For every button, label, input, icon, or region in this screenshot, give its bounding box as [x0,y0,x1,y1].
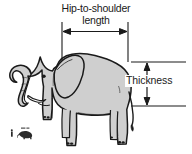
hip-to-shoulder-label-line2: length [0,15,192,27]
scale-ref-person-head [11,129,13,131]
elephant-tail-tuft [131,125,133,131]
elephant-measurement-figure: Hip-to-shoulder length Thickness [0,0,192,154]
elephant-far-hindleg [110,110,118,140]
hip-to-shoulder-label-line1: Hip-to-shoulder [62,2,131,14]
thickness-label: Thickness [125,75,173,87]
thickness-arrow-bottom [144,98,150,106]
elephant-eye [42,75,46,78]
scale-reference-silhouette [11,128,32,140]
hip-arrow-left [63,29,71,35]
scale-ref-person [11,132,13,137]
elephant-tail [129,92,133,126]
scale-ref-elephant [17,131,32,139]
thickness-arrow-top [144,63,150,71]
hip-to-shoulder-label: Hip-to-shoulder length [0,3,192,27]
hip-arrow-right [120,29,128,35]
scale-ref-tick-a [21,128,25,129]
toenails-hind-far [110,137,113,139]
scale-ref-tick-b [26,128,29,129]
elephant-far-foreleg [62,109,70,138]
